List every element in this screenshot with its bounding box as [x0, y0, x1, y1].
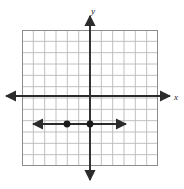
x-axis-label: x: [173, 92, 178, 102]
coordinate-plane-figure: x y: [0, 0, 184, 189]
point-a: [64, 121, 71, 128]
y-axis-label: y: [90, 6, 95, 16]
coordinate-plane-svg: x y: [0, 0, 184, 189]
point-b: [87, 121, 94, 128]
